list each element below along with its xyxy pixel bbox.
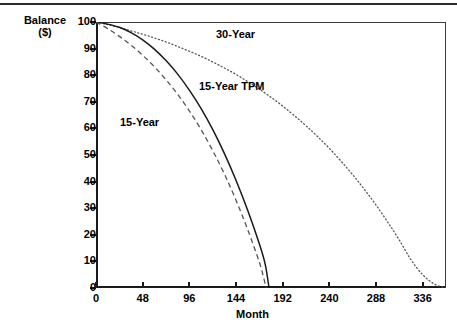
x-axis-tick-label: 336 — [403, 292, 443, 304]
y-axis-tick-label-wrap: 60 — [52, 122, 96, 133]
x-axis-title: Month — [0, 308, 457, 320]
y-axis-tick-label-wrap: 40 — [52, 176, 96, 187]
y-axis-title-line2: ($) — [6, 26, 84, 38]
y-axis-tick-label: 10 — [64, 255, 96, 266]
y-axis-tick-label-wrap: 80 — [52, 69, 96, 80]
x-axis-tick — [328, 282, 330, 288]
x-axis-tick — [422, 282, 424, 288]
y-axis-tick-label: 70 — [64, 96, 96, 107]
x-axis-tick — [375, 282, 377, 288]
y-axis-tick-label: 100 — [64, 16, 96, 27]
y-axis-tick-label: 40 — [64, 176, 96, 187]
plot-canvas — [96, 22, 446, 288]
y-axis-tick-label: 90 — [64, 43, 96, 54]
x-axis-tick-label: 96 — [169, 292, 209, 304]
y-axis-tick-label: 60 — [64, 122, 96, 133]
chart-figure: Balance ($) 0102030405060708090100 04896… — [0, 0, 457, 327]
x-axis-tick-label: 0 — [76, 292, 116, 304]
series-label-15-year: 15-Year — [120, 116, 159, 128]
series-line-15-year — [96, 22, 266, 288]
x-axis-tick — [282, 282, 284, 288]
x-axis-tick — [142, 282, 144, 288]
x-axis-tick-label: 48 — [123, 292, 163, 304]
y-axis-tick-label-wrap: 50 — [52, 149, 96, 160]
page-rule-divider — [0, 3, 457, 5]
x-axis-tick-label: 144 — [216, 292, 256, 304]
y-axis-tick-label: 20 — [64, 229, 96, 240]
y-axis-tick-label: 50 — [64, 149, 96, 160]
y-axis-tick-label-wrap: 30 — [52, 202, 96, 213]
x-axis-tick-label: 192 — [263, 292, 303, 304]
x-axis-tick — [95, 282, 97, 288]
y-axis-tick-label-wrap: 70 — [52, 96, 96, 107]
series-label-15-year-tpm: 15-Year TPM — [199, 80, 264, 92]
y-axis-tick-label-wrap: 100 — [52, 16, 96, 27]
y-axis-tick-label-wrap: 20 — [52, 229, 96, 240]
x-axis-tick — [188, 282, 190, 288]
x-axis-tick-label: 288 — [356, 292, 396, 304]
x-axis-tick-label: 240 — [309, 292, 349, 304]
series-line-15-year-tpm — [96, 22, 269, 288]
y-axis-tick-label-wrap: 10 — [52, 255, 96, 266]
series-label-30-year: 30-Year — [216, 28, 255, 40]
y-axis-tick-label: 30 — [64, 202, 96, 213]
series-line-30-year — [96, 22, 446, 288]
y-axis-tick-label-wrap: 90 — [52, 43, 96, 54]
x-axis-tick — [235, 282, 237, 288]
y-axis-tick-label: 80 — [64, 69, 96, 80]
